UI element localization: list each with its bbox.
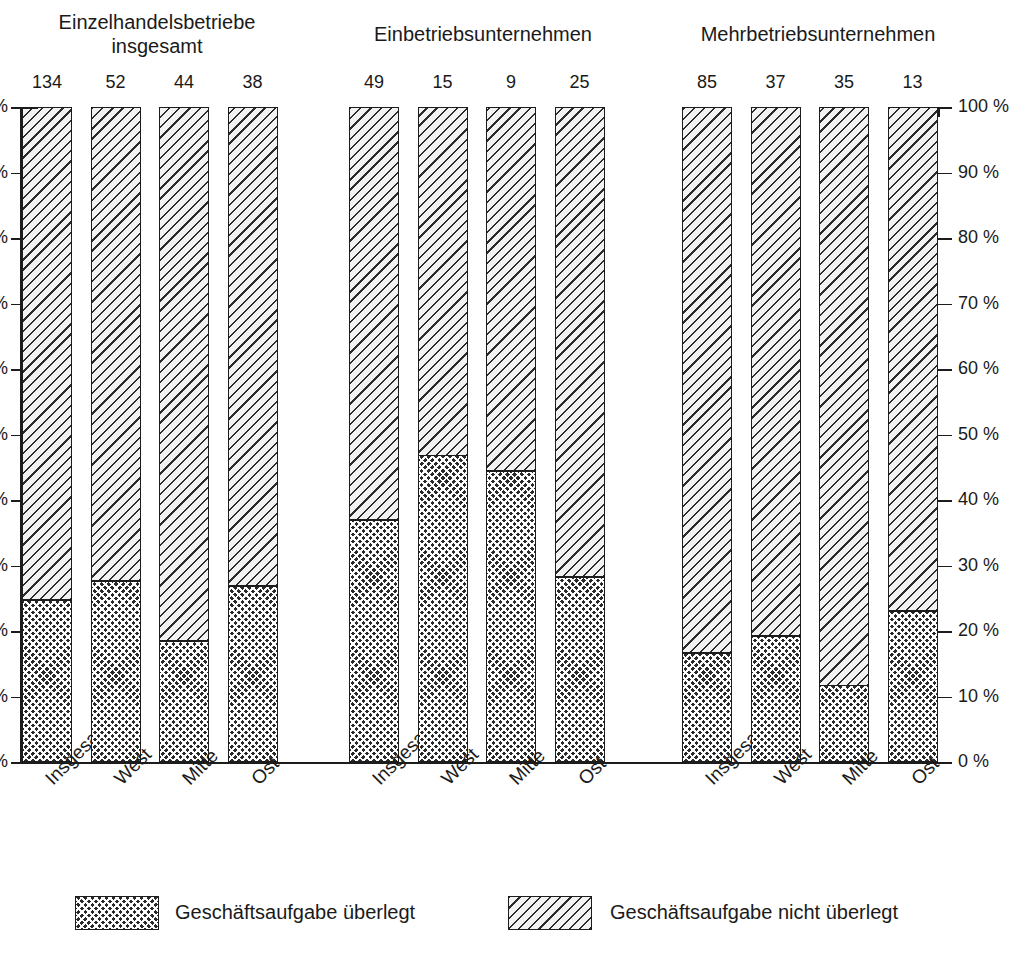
left-axis-top-cap	[20, 107, 38, 109]
bar-einzel-west[interactable]	[91, 107, 141, 762]
y-tick-right	[938, 631, 952, 633]
bar-segment-nicht-ueberlegt	[556, 108, 604, 577]
bar-segment-nicht-ueberlegt	[752, 108, 800, 636]
legend-label-1: Geschäftsaufgabe überlegt	[175, 900, 415, 924]
bar-segment-nicht-ueberlegt	[160, 108, 208, 641]
bar-segment-nicht-ueberlegt	[92, 108, 140, 581]
y-tick-label-left: %	[0, 227, 8, 247]
bar-einbet-mitte[interactable]	[486, 107, 536, 762]
bar-einbet-west[interactable]	[418, 107, 468, 762]
y-tick-left	[11, 697, 21, 699]
bar-mehrbe-mitte[interactable]	[819, 107, 869, 762]
y-tick-left	[11, 566, 21, 568]
y-tick-label-right: 70 %	[958, 293, 999, 313]
y-tick-left	[11, 107, 21, 109]
y-tick-label-left: %	[0, 620, 8, 640]
bar-segment-ueberlegt	[92, 581, 140, 762]
bar-segment-ueberlegt	[752, 636, 800, 762]
bar-segment-nicht-ueberlegt	[820, 108, 868, 686]
segment-divider	[350, 519, 398, 520]
y-tick-left	[11, 762, 21, 764]
y-tick-right	[938, 238, 952, 240]
bar-segment-ueberlegt	[419, 456, 467, 762]
y-tick-label-right: 10 %	[958, 686, 999, 706]
y-tick-left	[11, 238, 21, 240]
chart-canvas: Einzelhandelsbetriebe insgesamtEinbetrie…	[0, 0, 1028, 971]
y-tick-label-left: %	[0, 358, 8, 378]
bar-mehrbe-west[interactable]	[751, 107, 801, 762]
y-tick-right	[938, 435, 952, 437]
bar-mehrbe-insgesamt[interactable]	[682, 107, 732, 762]
bar-segment-ueberlegt	[556, 577, 604, 762]
y-tick-label-right: 60 %	[958, 358, 999, 378]
legend-swatch-1	[75, 896, 159, 930]
bar-segment-nicht-ueberlegt	[23, 108, 71, 600]
bar-segment-ueberlegt	[487, 471, 535, 762]
y-tick-right	[938, 107, 952, 109]
y-tick-label-left: %	[0, 751, 8, 771]
y-tick-label-left: %	[0, 162, 8, 182]
segment-divider	[23, 599, 71, 600]
y-tick-left	[11, 304, 21, 306]
y-tick-right	[938, 173, 952, 175]
bar-count-label: 38	[203, 72, 303, 92]
bar-segment-nicht-ueberlegt	[487, 108, 535, 471]
group-title-3: Mehrbetriebsunternehmen	[618, 22, 1018, 46]
segment-divider	[92, 580, 140, 581]
y-tick-left	[11, 435, 21, 437]
bar-segment-nicht-ueberlegt	[419, 108, 467, 456]
y-tick-label-left: %	[0, 424, 8, 444]
y-tick-label-left: %	[0, 555, 8, 575]
y-tick-right	[938, 369, 952, 371]
bar-einzel-mitte[interactable]	[159, 107, 209, 762]
bar-einbet-insgesamt[interactable]	[349, 107, 399, 762]
segment-divider	[556, 576, 604, 577]
y-tick-label-right: 40 %	[958, 489, 999, 509]
segment-divider	[487, 470, 535, 471]
bar-segment-nicht-ueberlegt	[889, 108, 937, 611]
bar-count-label: 25	[530, 72, 630, 92]
y-tick-left	[11, 500, 21, 502]
segment-divider	[229, 585, 277, 586]
bar-segment-ueberlegt	[683, 653, 731, 762]
y-tick-label-left: %	[0, 96, 8, 116]
segment-divider	[683, 652, 731, 653]
y-tick-label-right: 30 %	[958, 555, 999, 575]
y-tick-label-right: 90 %	[958, 162, 999, 182]
y-tick-left	[11, 369, 21, 371]
y-tick-label-right: 0 %	[958, 751, 989, 771]
bar-segment-nicht-ueberlegt	[229, 108, 277, 586]
y-tick-left	[11, 173, 21, 175]
y-tick-label-left: %	[0, 686, 8, 706]
bar-segment-ueberlegt	[160, 641, 208, 762]
segment-divider	[752, 635, 800, 636]
y-tick-label-left: %	[0, 489, 8, 509]
bar-segment-nicht-ueberlegt	[683, 108, 731, 653]
y-tick-label-right: 100 %	[958, 96, 1009, 116]
bar-count-label: 13	[863, 72, 963, 92]
bar-segment-ueberlegt	[229, 586, 277, 762]
y-tick-right	[938, 566, 952, 568]
bar-einbet-ost[interactable]	[555, 107, 605, 762]
bar-segment-ueberlegt	[350, 520, 398, 762]
y-tick-right	[938, 697, 952, 699]
bar-segment-ueberlegt	[23, 600, 71, 762]
y-tick-label-right: 50 %	[958, 424, 999, 444]
bar-einzel-ost[interactable]	[228, 107, 278, 762]
y-tick-right	[938, 500, 952, 502]
y-tick-right	[938, 304, 952, 306]
legend-swatch-2	[508, 896, 592, 930]
bar-mehrbe-ost[interactable]	[888, 107, 938, 762]
bar-segment-nicht-ueberlegt	[350, 108, 398, 520]
y-tick-label-left: %	[0, 293, 8, 313]
x-axis-line	[20, 762, 945, 764]
segment-divider	[820, 685, 868, 686]
y-tick-label-right: 20 %	[958, 620, 999, 640]
legend-label-2: Geschäftsaufgabe nicht überlegt	[610, 900, 898, 924]
y-tick-right	[938, 762, 952, 764]
bar-einzel-insgesamt[interactable]	[22, 107, 72, 762]
segment-divider	[419, 455, 467, 456]
segment-divider	[889, 610, 937, 611]
y-tick-label-right: 80 %	[958, 227, 999, 247]
bar-segment-ueberlegt	[889, 611, 937, 762]
